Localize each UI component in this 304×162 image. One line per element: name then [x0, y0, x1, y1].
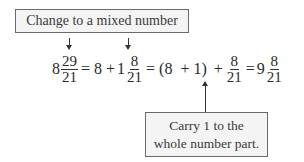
equation: 8 29 21 = 8 + 1 8 21 = (8 + 1) + 8 21 = … — [52, 52, 284, 86]
grouped-sum: (8 + 1) — [159, 60, 207, 78]
arrowhead-down-icon-1 — [66, 45, 72, 50]
whole-8b: 8 — [94, 60, 102, 78]
callout-carry-one: Carry 1 to the whole number part. — [145, 112, 268, 157]
plus-sign: + — [214, 60, 223, 78]
equals-sign: = — [81, 60, 90, 78]
fraction-result: 8 21 — [266, 54, 283, 85]
equals-sign: = — [246, 60, 255, 78]
fraction-8-21: 8 21 — [126, 54, 143, 85]
whole-8: 8 — [52, 60, 60, 78]
arrow-up-icon — [205, 85, 206, 112]
equals-sign: = — [146, 60, 155, 78]
arrowhead-down-icon-2 — [125, 45, 131, 50]
fraction-29-21: 29 21 — [61, 54, 78, 85]
callout-line-2: whole number part. — [146, 135, 267, 153]
callout-line-1: Carry 1 to the — [146, 117, 267, 135]
whole-1: 1 — [117, 60, 125, 78]
whole-9: 9 — [257, 60, 265, 78]
callout-change-to-mixed-number: Change to a mixed number — [15, 9, 189, 33]
plus-sign: + — [106, 60, 115, 78]
callout-text: Change to a mixed number — [26, 13, 178, 28]
fraction-8-21b: 8 21 — [226, 54, 243, 85]
